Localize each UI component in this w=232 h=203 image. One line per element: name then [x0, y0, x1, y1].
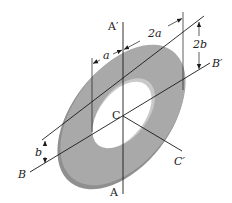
label-b: B: [17, 168, 26, 181]
label-dim-a: a: [103, 49, 110, 62]
dim-a-arrow-left: [93, 60, 100, 64]
diagram-canvas: A′ A B B′ C C′ a 2a 2b b: [0, 0, 232, 203]
label-c-prime: C′: [174, 155, 185, 168]
label-a-prime: A′: [107, 20, 119, 33]
dim-a-arrow-right: [113, 50, 122, 54]
label-b-prime: B′: [211, 57, 223, 70]
label-dim-2b: 2b: [192, 38, 207, 51]
dim-2a-arrow-right: [168, 19, 182, 27]
label-dim-2a: 2a: [147, 27, 162, 40]
annular-disk: [32, 22, 211, 203]
figure: A′ A B B′ C C′ a 2a 2b b: [0, 0, 232, 203]
label-c: C: [112, 109, 120, 122]
label-dim-b: b: [35, 146, 42, 159]
label-a: A: [109, 186, 119, 199]
